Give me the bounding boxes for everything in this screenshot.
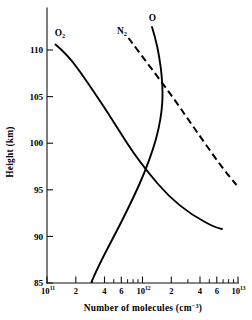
figure-container: 85 90 95 100 105 110 bbox=[0, 0, 252, 320]
x-tick-label-1e13: 1013 bbox=[231, 285, 245, 295]
series-label-o2: O2 bbox=[55, 28, 65, 39]
x-tick-label-4e12: 4 bbox=[198, 286, 203, 296]
series-labels: O2 N2 O bbox=[55, 13, 156, 39]
y-tick-label-105: 105 bbox=[30, 92, 44, 102]
series-label-o: O bbox=[149, 13, 156, 23]
x-tick-label-2e12: 2 bbox=[169, 286, 173, 296]
y-axis-title: Height (km) bbox=[5, 126, 16, 177]
x-tick-label-6e11: 6 bbox=[119, 286, 124, 296]
y-tick-label-95: 95 bbox=[34, 185, 43, 195]
x-tick-label-4e11: 4 bbox=[102, 286, 107, 296]
y-axis-tick-labels: 85 90 95 100 105 110 bbox=[30, 45, 44, 288]
x-tick-label-6e12: 6 bbox=[215, 286, 220, 296]
curve-n2 bbox=[129, 38, 237, 185]
y-tick-label-90: 90 bbox=[34, 232, 43, 242]
series-label-n2: N2 bbox=[117, 26, 127, 37]
x-axis-tick-labels: 1011 2 4 6 1012 2 4 6 1013 bbox=[41, 285, 246, 295]
curve-o2 bbox=[56, 45, 223, 229]
curve-o bbox=[92, 27, 163, 282]
y-tick-label-100: 100 bbox=[30, 138, 44, 148]
atmospheric-profile-chart: 85 90 95 100 105 110 bbox=[0, 0, 252, 320]
x-axis-title: Number of molecules (cm−3) bbox=[84, 302, 202, 314]
x-tick-label-2e11: 2 bbox=[74, 286, 78, 296]
x-tick-label-1e11: 1011 bbox=[41, 285, 55, 295]
x-axis-minor-ticks bbox=[92, 279, 233, 283]
axes-frame bbox=[47, 8, 239, 283]
x-tick-label-1e12: 1012 bbox=[136, 285, 150, 295]
y-axis-ticks bbox=[47, 50, 53, 283]
y-tick-label-110: 110 bbox=[30, 45, 43, 55]
